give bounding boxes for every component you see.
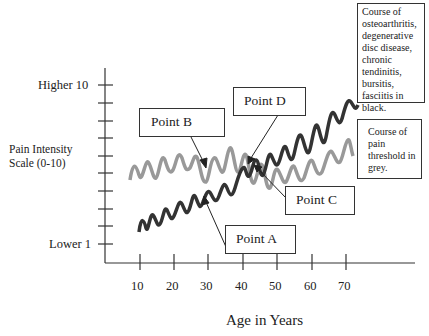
x-axis-title: Age in Years <box>226 312 303 329</box>
legend-text: threshold in <box>368 150 421 162</box>
x-tick-label: 40 <box>235 279 248 294</box>
legend-grey-series: Course of pain threshold in grey. <box>357 119 422 179</box>
y-axis-title: Pain Intensity Scale (0-10) <box>9 142 73 170</box>
legend-text: degenerative <box>362 30 420 42</box>
x-tick-label: 10 <box>131 279 144 294</box>
legend-text: black. <box>362 102 420 114</box>
legend-text: grey. <box>368 162 421 174</box>
legend-text: Course of <box>362 6 420 18</box>
x-tick-label: 50 <box>269 279 282 294</box>
legend-text: pain <box>368 138 421 150</box>
point-a-label: Point A <box>225 225 296 254</box>
x-tick-label: 20 <box>166 279 179 294</box>
x-tick-label: 70 <box>338 279 351 294</box>
y-axis-title-line2: Scale (0-10) <box>9 156 73 170</box>
x-tick-label: 60 <box>304 279 317 294</box>
grey-series-line <box>130 140 353 188</box>
legend-text: osteoarthritis, <box>362 18 420 30</box>
point-b-label: Point B <box>139 108 225 137</box>
legend-text: chronic <box>362 54 420 66</box>
x-ticks <box>140 254 346 270</box>
legend-text: disc disease, <box>362 42 420 54</box>
legend-text: fasciitis in <box>362 90 420 102</box>
y-tick-label-top: Higher 10 <box>38 78 88 93</box>
x-tick-label: 30 <box>200 279 213 294</box>
legend-black-series: Course of osteoarthritis, degenerative d… <box>357 3 425 103</box>
y-axis-title-line1: Pain Intensity <box>9 142 73 156</box>
legend-text: tendinitis, <box>362 66 420 78</box>
y-tick-label-bottom: Lower 1 <box>49 237 91 252</box>
legend-text: bursitis, <box>362 78 420 90</box>
point-d-label: Point D <box>233 87 306 116</box>
legend-text: Course of <box>368 126 421 138</box>
point-c-label: Point C <box>285 186 355 215</box>
